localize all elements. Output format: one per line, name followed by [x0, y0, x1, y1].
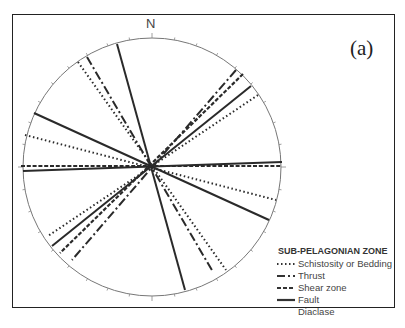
solid-line-icon — [276, 296, 296, 304]
legend-item-diaclase: Diaclase — [276, 306, 392, 318]
legend-item-schistosity: Schistosity or Bedding — [276, 258, 392, 270]
legend-item-shear-zone: Shear zone — [276, 282, 392, 294]
dashed-line-icon — [276, 284, 296, 292]
legend-title: SUB-PELAGONIAN ZONE — [278, 245, 392, 257]
north-label: N — [146, 16, 155, 31]
legend-item-thrust: Thrust — [276, 270, 392, 282]
panel-label: (a) — [350, 36, 373, 61]
legend-item-fault: Fault — [276, 294, 392, 306]
dotted-line-icon — [276, 260, 296, 268]
structure-lines — [21, 44, 282, 290]
dash-dot-line-icon — [276, 272, 296, 280]
blank-line-icon — [276, 308, 296, 316]
legend: SUB-PELAGONIAN ZONE Schistosity or Beddi… — [276, 245, 392, 318]
